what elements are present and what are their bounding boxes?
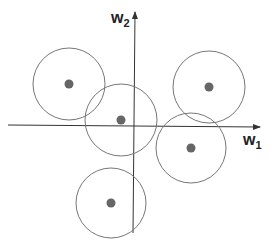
x-axis-label: w1: [243, 131, 262, 151]
cluster-center-dot-3: [205, 83, 214, 92]
cluster-center-dot-4: [187, 144, 196, 153]
diagram-canvas: [0, 0, 273, 247]
y-axis: [133, 12, 135, 233]
y-axis-label: w2: [111, 9, 130, 29]
cluster-center-dot-1: [65, 80, 74, 89]
cluster-center-dot-2: [117, 116, 126, 125]
cluster-center-dot-5: [107, 199, 116, 208]
